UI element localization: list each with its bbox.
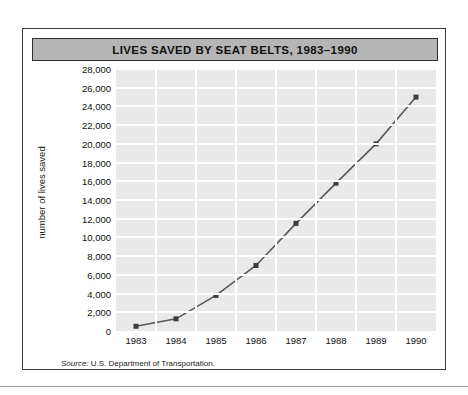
y-axis-title: number of lives saved — [36, 118, 47, 268]
x-axis-tick-label: 1989 — [365, 335, 386, 346]
gridline-vertical — [275, 69, 277, 331]
chart-title-bar: LIVES SAVED BY SEAT BELTS, 1983–1990 — [32, 38, 438, 61]
y-axis-tick-label: 12,000 — [82, 213, 111, 224]
x-axis-tick-label: 1984 — [165, 335, 186, 346]
gridline-vertical — [235, 69, 237, 331]
y-axis-tick-label: 28,000 — [82, 64, 111, 75]
chart-title: LIVES SAVED BY SEAT BELTS, 1983–1990 — [112, 44, 358, 56]
gridline-vertical — [195, 69, 197, 331]
x-axis-tick-label: 1983 — [125, 335, 146, 346]
y-axis-tick-label: 0 — [106, 326, 111, 337]
x-axis-tick-label: 1990 — [405, 335, 426, 346]
data-point-marker — [254, 263, 259, 268]
figure-frame: LIVES SAVED BY SEAT BELTS, 1983–1990 num… — [22, 28, 446, 370]
x-axis-tick-label: 1987 — [285, 335, 306, 346]
y-axis-tick-label: 26,000 — [82, 82, 111, 93]
y-axis-tick-label: 16,000 — [82, 176, 111, 187]
y-axis-tick-label: 20,000 — [82, 138, 111, 149]
y-axis-tick-label: 10,000 — [82, 232, 111, 243]
bottom-divider — [0, 386, 468, 387]
source-text: U.S. Department of Transportation. — [91, 359, 215, 368]
y-axis-tick-label: 2,000 — [87, 307, 111, 318]
y-axis-tick-label: 8,000 — [87, 251, 111, 262]
data-point-marker — [294, 221, 299, 226]
y-axis-tick-labels: 02,0004,0006,0008,00010,00012,00014,0001… — [57, 69, 111, 331]
data-point-marker — [174, 316, 179, 321]
data-point-marker — [414, 95, 419, 100]
gridline-vertical — [155, 69, 157, 331]
y-axis-tick-label: 14,000 — [82, 195, 111, 206]
source-note: Source: U.S. Department of Transportatio… — [61, 359, 215, 368]
plot-area — [116, 69, 436, 331]
source-label: Source: — [61, 359, 89, 368]
chart-region: number of lives saved 02,0004,0006,0008,… — [23, 69, 447, 371]
gridline-vertical — [395, 69, 397, 331]
y-axis-tick-label: 24,000 — [82, 101, 111, 112]
data-point-marker — [134, 324, 139, 329]
y-axis-tick-label: 18,000 — [82, 157, 111, 168]
gridline-vertical — [315, 69, 317, 331]
x-axis-tick-label: 1988 — [325, 335, 346, 346]
y-axis-tick-label: 22,000 — [82, 120, 111, 131]
gridline-vertical — [355, 69, 357, 331]
y-axis-tick-label: 4,000 — [87, 288, 111, 299]
x-axis-tick-label: 1985 — [205, 335, 226, 346]
y-axis-tick-label: 6,000 — [87, 269, 111, 280]
x-axis-tick-labels: 19831984198519861987198819891990 — [116, 335, 436, 351]
x-axis-tick-label: 1986 — [245, 335, 266, 346]
